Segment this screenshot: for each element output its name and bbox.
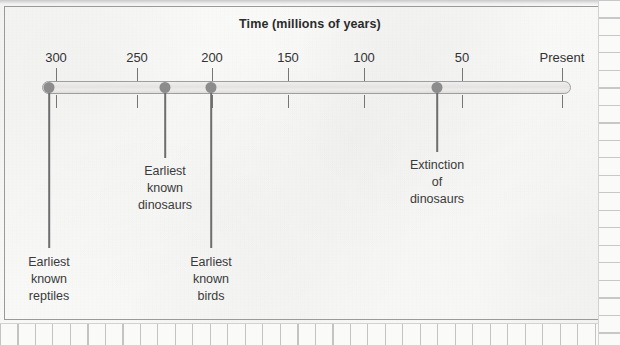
axis-tick-mark-upper [212, 68, 213, 81]
axis-tick-mark-lower [212, 95, 213, 108]
axis-tick-mark-lower [137, 95, 138, 108]
figure-border [4, 6, 612, 320]
event-label-line: known [28, 271, 70, 288]
axis-tick-mark-upper [562, 68, 563, 81]
axis-tick-mark-upper [364, 68, 365, 81]
axis-tick-label: 250 [126, 50, 148, 65]
event-label: Earliestknowndinosaurs [138, 163, 192, 214]
event-label-line: Extinction [410, 157, 464, 174]
timeline-axis-bar [42, 81, 571, 94]
axis-tick-label: 100 [353, 50, 375, 65]
event-marker-dot [432, 82, 443, 93]
event-marker-dot [206, 82, 217, 93]
event-marker-dot [44, 82, 55, 93]
event-leader-line [164, 93, 166, 158]
axis-tick-mark-upper [288, 68, 289, 81]
event-label-line: dinosaurs [410, 191, 464, 208]
event-leader-line [48, 93, 50, 248]
event-label-line: known [190, 271, 232, 288]
event-label-line: known [138, 180, 192, 197]
figure-page: Time (millions of years) 300250200150100… [0, 0, 620, 345]
bottom-ruler-ticks [0, 324, 620, 345]
axis-tick-mark-lower [288, 95, 289, 108]
axis-tick-mark-upper [462, 68, 463, 81]
axis-tick-label: 300 [45, 50, 67, 65]
axis-tick-label: Present [540, 50, 585, 65]
event-label-line: Earliest [190, 254, 232, 271]
event-label-line: Earliest [28, 254, 70, 271]
axis-tick-mark-lower [364, 95, 365, 108]
axis-tick-mark-lower [462, 95, 463, 108]
axis-tick-label: 200 [201, 50, 223, 65]
event-leader-line [436, 93, 438, 152]
event-label: Earliestknownreptiles [28, 254, 70, 305]
event-label: Earliestknownbirds [190, 254, 232, 305]
event-label-line: birds [190, 288, 232, 305]
event-label-line: of [410, 174, 464, 191]
axis-tick-mark-upper [56, 68, 57, 81]
axis-tick-mark-lower [56, 95, 57, 108]
event-leader-line [210, 93, 212, 248]
axis-tick-mark-lower [562, 95, 563, 108]
event-marker-dot [160, 82, 171, 93]
right-ruler-strip [598, 0, 620, 345]
event-label-line: reptiles [28, 288, 70, 305]
page-top-shadow [0, 0, 620, 5]
axis-tick-label: 150 [277, 50, 299, 65]
right-ruler-ticks [599, 0, 620, 345]
event-label: Extinctionofdinosaurs [410, 157, 464, 208]
event-label-line: dinosaurs [138, 197, 192, 214]
figure-title: Time (millions of years) [0, 17, 620, 31]
axis-tick-label: 50 [455, 50, 469, 65]
event-label-line: Earliest [138, 163, 192, 180]
bottom-ruler-strip [0, 323, 620, 345]
axis-tick-mark-upper [137, 68, 138, 81]
